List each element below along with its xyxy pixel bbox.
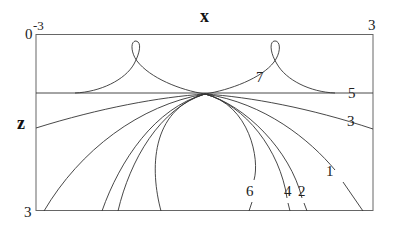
x-tick-left: -3 (33, 18, 44, 33)
plot-frame (36, 35, 373, 211)
x-tick-right: 3 (368, 17, 376, 33)
curve-6-tail (249, 202, 252, 211)
z-axis-label: z (17, 113, 25, 133)
curve-label-4: 4 (284, 183, 292, 199)
diagram-canvas: x z 0 -3 3 3 7 5 3 1 6 4 2 (0, 0, 393, 228)
curve-7 (75, 41, 335, 94)
curve-label-6: 6 (246, 183, 254, 199)
curve-label-7: 7 (256, 69, 264, 85)
curve-label-1: 1 (326, 163, 334, 179)
curve-label-3: 3 (347, 113, 355, 129)
z-tick-top: 0 (25, 26, 33, 42)
curve-3 (36, 94, 373, 129)
curve-2-tail (304, 203, 307, 211)
x-axis-label: x (200, 6, 209, 26)
curve-1-tail (343, 182, 363, 211)
curve-label-5: 5 (348, 85, 356, 101)
curve-label-2: 2 (298, 183, 306, 199)
curve-2 (118, 94, 302, 211)
trajectory-plot: x z 0 -3 3 3 7 5 3 1 6 4 2 (0, 0, 393, 228)
curve-4 (102, 94, 287, 211)
curve-4-tail (288, 203, 290, 211)
z-tick-bottom: 3 (24, 204, 32, 220)
